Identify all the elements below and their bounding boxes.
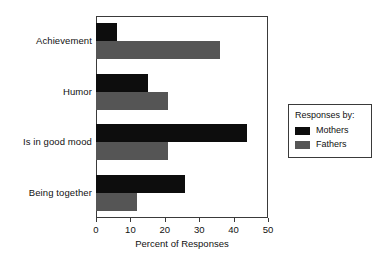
- x-tick-40: [234, 218, 235, 222]
- x-tick-10: [130, 218, 131, 222]
- bar-mothers-achievement: [96, 23, 117, 41]
- category-label-being-together: Being together: [0, 187, 92, 198]
- x-tick-20: [165, 218, 166, 222]
- category-label-humor: Humor: [0, 86, 92, 97]
- x-tick-30: [199, 218, 200, 222]
- bar-fathers-is-in-good-mood: [96, 142, 168, 160]
- x-tick-50: [268, 218, 269, 222]
- legend-item-mothers: Mothers: [295, 124, 371, 137]
- bar-mothers-humor: [96, 74, 148, 92]
- x-tick-0: [96, 218, 97, 222]
- x-axis-title: Percent of Responses: [96, 238, 268, 249]
- legend-swatch-mothers: [295, 127, 310, 135]
- bar-fathers-being-together: [96, 193, 137, 211]
- legend-label-mothers: Mothers: [316, 125, 349, 136]
- category-label-achievement: Achievement: [0, 35, 92, 46]
- bar-fathers-achievement: [96, 41, 220, 59]
- category-label-is-in-good-mood: Is in good mood: [0, 136, 92, 147]
- legend-swatch-fathers: [295, 141, 310, 149]
- legend-title: Responses by:: [295, 110, 371, 121]
- legend-label-fathers: Fathers: [316, 139, 347, 150]
- bar-fathers-humor: [96, 92, 168, 110]
- bar-mothers-being-together: [96, 175, 185, 193]
- legend-item-fathers: Fathers: [295, 138, 371, 151]
- bar-chart-figure: AchievementHumorIs in good moodBeing tog…: [0, 0, 380, 267]
- chart-legend: Responses by: Mothers Fathers: [288, 104, 372, 158]
- bar-mothers-is-in-good-mood: [96, 124, 247, 142]
- x-tick-label-50: 50: [248, 224, 288, 235]
